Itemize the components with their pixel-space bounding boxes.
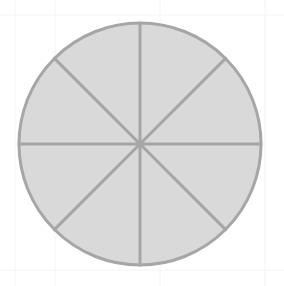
- fraction-circle-diagram: [0, 0, 284, 286]
- sector-dividers: [19, 23, 261, 265]
